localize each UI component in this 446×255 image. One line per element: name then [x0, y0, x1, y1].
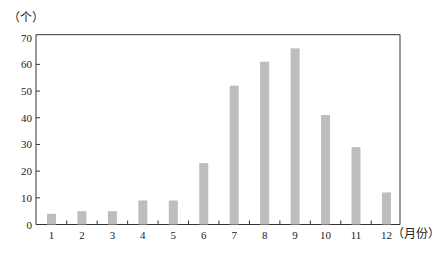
bar-chart: 010203040506070 123456789101112 （个） （月份）	[0, 0, 446, 255]
x-tick-label: 10	[320, 229, 332, 241]
bar-month-7	[230, 86, 239, 225]
x-tick-label: 11	[351, 229, 362, 241]
bars	[47, 48, 391, 224]
bar-month-10	[321, 115, 330, 224]
bar-month-6	[199, 163, 208, 224]
bar-month-2	[77, 211, 86, 224]
y-tick-label: 40	[21, 112, 33, 124]
x-tick-label: 2	[79, 229, 85, 241]
x-tick-label: 7	[231, 229, 237, 241]
x-tick-label: 4	[140, 229, 146, 241]
x-tick-label: 9	[292, 229, 298, 241]
y-axis-unit-label: （个）	[8, 11, 44, 25]
plot-frame	[36, 35, 400, 225]
bar-month-12	[382, 192, 391, 224]
x-tick-label: 6	[201, 229, 207, 241]
y-tick-label: 20	[21, 165, 33, 177]
x-axis: 123456789101112	[49, 221, 392, 241]
x-tick-label: 8	[262, 229, 268, 241]
y-tick-label: 50	[21, 85, 33, 97]
bar-month-11	[352, 147, 361, 224]
x-tick-label: 5	[171, 229, 177, 241]
y-tick-label: 30	[21, 138, 33, 150]
bar-month-5	[169, 200, 178, 224]
x-tick-label: 12	[381, 229, 392, 241]
bar-month-8	[260, 62, 269, 225]
x-axis-unit-label: （月份）	[392, 227, 440, 241]
y-tick-label: 70	[21, 32, 33, 44]
bar-month-1	[47, 214, 56, 225]
x-tick-label: 1	[49, 229, 55, 241]
x-tick-label: 3	[110, 229, 116, 241]
y-tick-label: 10	[21, 192, 33, 204]
y-tick-label: 0	[27, 219, 33, 231]
bar-month-3	[108, 211, 117, 224]
y-tick-label: 60	[21, 58, 33, 70]
bar-month-9	[291, 48, 300, 224]
bar-month-4	[138, 200, 147, 224]
y-axis: 010203040506070	[21, 32, 40, 231]
